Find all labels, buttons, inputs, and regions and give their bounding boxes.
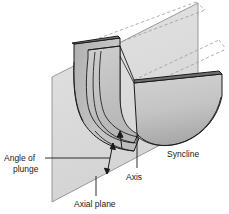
angle-of-plunge-label-line1: Angle of <box>4 153 36 163</box>
syncline-block-diagram: Angle of plunge Axial plane Axis Synclin… <box>0 0 229 214</box>
angle-of-plunge-label-line2: plunge <box>13 164 39 174</box>
syncline-label: Syncline <box>167 149 199 159</box>
axial-plane-label: Axial plane <box>74 199 116 209</box>
diagram-canvas: Angle of plunge Axial plane Axis Synclin… <box>0 0 229 214</box>
axis-label: Axis <box>126 172 142 182</box>
